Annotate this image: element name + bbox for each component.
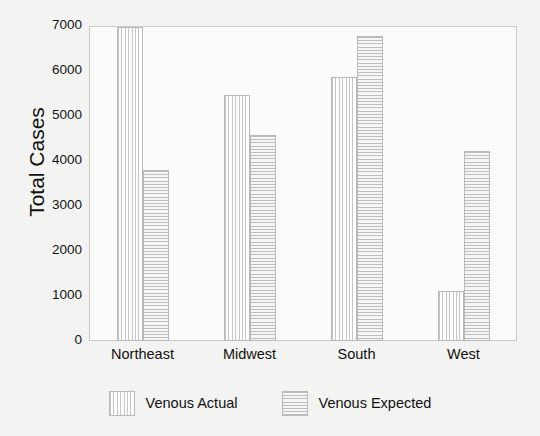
y-tick-label: 3000 (22, 197, 82, 212)
y-tick-label: 0 (22, 332, 82, 347)
x-tick-label: Northeast (83, 346, 203, 362)
y-tick-label: 5000 (22, 107, 82, 122)
bar (250, 135, 276, 341)
x-tick-label: South (297, 346, 417, 362)
x-tick-label: West (404, 346, 524, 362)
y-tick-label: 4000 (22, 152, 82, 167)
bars-layer (89, 26, 517, 341)
legend-swatch-icon (282, 391, 308, 416)
legend-entry: Venous Expected (282, 391, 432, 416)
y-tick-label: 1000 (22, 287, 82, 302)
chart-legend: Venous ActualVenous Expected (0, 388, 540, 418)
bar (357, 36, 383, 341)
bar (143, 170, 169, 341)
y-tick-label: 6000 (22, 62, 82, 77)
legend-label: Venous Actual (146, 395, 238, 411)
legend-label: Venous Expected (319, 395, 432, 411)
bar-chart-figure: Total Cases 0100020003000400050006000700… (0, 0, 540, 436)
bar (224, 95, 250, 341)
bar (331, 77, 357, 341)
y-tick-label: 2000 (22, 242, 82, 257)
bar (117, 27, 143, 341)
x-axis-tick-labels: NortheastMidwestSouthWest (89, 346, 517, 372)
y-tick-label: 7000 (22, 17, 82, 32)
bar (464, 151, 490, 341)
bar (438, 291, 464, 341)
legend-swatch-icon (109, 391, 135, 416)
x-tick-label: Midwest (190, 346, 310, 362)
legend-entry: Venous Actual (109, 391, 238, 416)
